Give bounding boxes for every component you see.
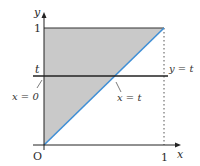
y-tick-1-label: 1 bbox=[34, 22, 41, 35]
x-axis-arrow-icon bbox=[175, 143, 181, 148]
x-axis-label: x bbox=[177, 148, 184, 161]
leader-x-equals-0 bbox=[37, 80, 42, 88]
leader-x-equals-t bbox=[116, 82, 121, 92]
integration-region-diagram: y 1 t x = 0 O 1 x y = t x = t bbox=[0, 0, 200, 166]
line-x-equals-0-label: x = 0 bbox=[12, 91, 39, 102]
origin-label: O bbox=[33, 150, 42, 163]
line-x-equals-t-label: x = t bbox=[117, 92, 142, 103]
t-tick-label: t bbox=[35, 63, 40, 76]
y-axis-label: y bbox=[33, 6, 41, 19]
x-tick-1-label: 1 bbox=[161, 151, 168, 164]
y-axis-arrow-icon bbox=[42, 12, 47, 18]
line-y-equals-t-label: y = t bbox=[168, 63, 194, 74]
